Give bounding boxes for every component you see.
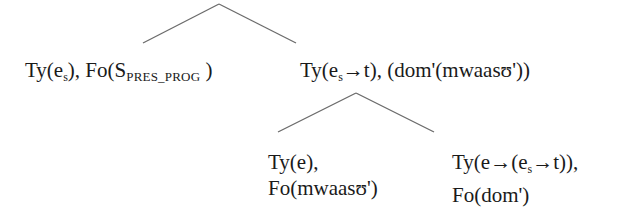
functor-type: Ty(e→(es→t)), bbox=[452, 149, 578, 182]
argument-formula: Fo(mwaasʊ') bbox=[268, 175, 378, 201]
node-argument: Ty(e), Fo(mwaasʊ') bbox=[268, 149, 378, 201]
edge-root-left bbox=[143, 4, 219, 43]
node-event-term: Ty(es), Fo(SPRES_PROG ) bbox=[25, 57, 213, 90]
node-predicate: Ty(es→t), (dom'(mwaasʊ')) bbox=[300, 57, 530, 90]
functor-formula: Fo(dom') bbox=[452, 182, 578, 208]
edge-root-right bbox=[219, 4, 296, 43]
argument-type: Ty(e), bbox=[268, 149, 378, 175]
node-functor: Ty(e→(es→t)), Fo(dom') bbox=[452, 149, 578, 208]
edge-pred-left bbox=[278, 93, 356, 132]
edge-pred-right bbox=[356, 93, 434, 132]
